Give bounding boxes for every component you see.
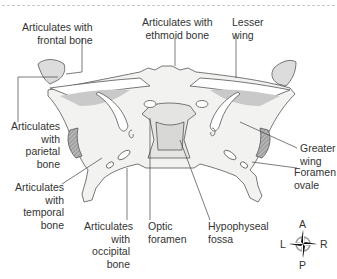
label-line: bone: [84, 258, 130, 271]
compass-left: L: [280, 238, 286, 251]
compass-rose-icon: [289, 230, 317, 258]
label-line: Articulates with: [142, 16, 213, 29]
label-line: with: [4, 133, 60, 146]
label-line: frontal bone: [22, 34, 93, 47]
label-line: with: [84, 233, 130, 246]
compass-right: R: [320, 238, 328, 251]
label-line: parietal: [4, 145, 60, 158]
label-line: fossa: [208, 233, 269, 246]
label-line: Articulates with: [22, 21, 93, 34]
label-line: ethmoid bone: [142, 29, 213, 42]
label-parietal-articulation: Articulates with parietal bone: [4, 120, 60, 170]
label-optic-foramen: Optic foramen: [148, 220, 187, 245]
label-line: ovale: [294, 179, 336, 192]
label-line: bone: [4, 219, 64, 232]
label-line: Articulates: [84, 220, 130, 233]
label-greater-wing: Greater wing: [300, 142, 336, 167]
label-line: occipital: [84, 245, 130, 258]
label-frontal-articulation: Articulates with frontal bone: [22, 21, 93, 46]
sphenoid-bone: [38, 60, 296, 203]
compass-anterior: A: [299, 218, 306, 231]
label-line: Articulates: [4, 120, 60, 133]
compass-posterior: P: [299, 259, 306, 272]
label-line: Hypophyseal: [208, 220, 269, 233]
label-line: Greater: [300, 142, 336, 155]
label-occipital-articulation: Articulates with occipital bone: [84, 220, 130, 270]
label-temporal-articulation: Articulates with temporal bone: [4, 181, 64, 231]
label-line: bone: [4, 158, 60, 171]
label-line: Foramen: [294, 166, 336, 179]
label-line: with: [4, 194, 64, 207]
label-line: Optic: [148, 220, 187, 233]
label-hypophyseal-fossa: Hypophyseal fossa: [208, 220, 269, 245]
label-line: temporal: [4, 206, 64, 219]
label-line: Articulates: [4, 181, 64, 194]
label-lesser-wing: Lesser wing: [232, 16, 264, 41]
label-foramen-ovale: Foramen ovale: [294, 166, 336, 191]
label-line: foramen: [148, 233, 187, 246]
label-line: wing: [232, 29, 264, 42]
label-ethmoid-articulation: Articulates with ethmoid bone: [142, 16, 213, 41]
label-line: Lesser: [232, 16, 264, 29]
